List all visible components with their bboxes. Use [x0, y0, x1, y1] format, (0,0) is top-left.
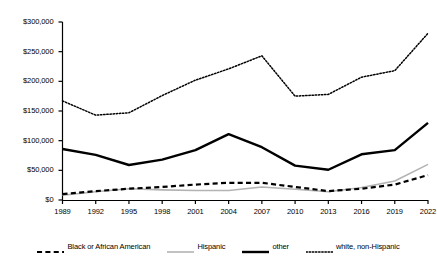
- legend-item[interactable]: Black or African American: [37, 242, 150, 251]
- axes: [59, 22, 429, 204]
- line-chart: $0$50,000$100,000$150,000$200,000$250,00…: [0, 0, 437, 266]
- legend-label: other: [272, 242, 289, 251]
- y-axis-tick-label: $150,000: [0, 106, 54, 115]
- legend-item[interactable]: other: [242, 242, 289, 251]
- x-axis-tick-label: 2022: [408, 207, 437, 216]
- legend-label: Hispanic: [197, 242, 225, 251]
- legend-item[interactable]: Hispanic: [167, 242, 225, 251]
- series-line: [63, 33, 429, 115]
- legend-label: Black or African American: [67, 242, 150, 251]
- plot-area: [0, 0, 437, 266]
- y-axis-tick-label: $0: [0, 195, 54, 204]
- y-axis-tick-label: $200,000: [0, 76, 54, 85]
- legend-label: white, non-Hispanic: [336, 242, 400, 251]
- legend-swatch-icon: [242, 242, 269, 250]
- chart-legend: Black or African AmericanHispanicotherwh…: [0, 236, 437, 256]
- y-axis-tick-label: $300,000: [0, 17, 54, 26]
- y-axis-tick-label: $100,000: [0, 136, 54, 145]
- series-line: [63, 123, 429, 170]
- legend-swatch-icon: [167, 242, 194, 250]
- legend-swatch-icon: [37, 242, 64, 250]
- y-axis-tick-label: $50,000: [0, 165, 54, 174]
- y-axis-tick-label: $250,000: [0, 47, 54, 56]
- legend-item[interactable]: white, non-Hispanic: [306, 242, 400, 251]
- data-series-group: [63, 33, 429, 195]
- legend-swatch-icon: [306, 242, 333, 250]
